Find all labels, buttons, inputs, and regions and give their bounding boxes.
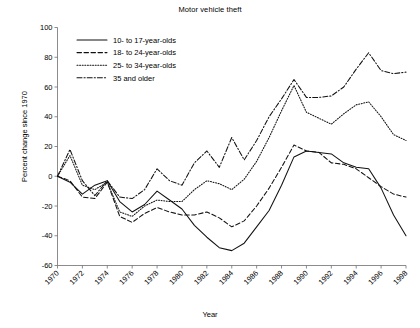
x-axis-tick-label: 1970 bbox=[43, 269, 61, 287]
legend-label-2: 18- to 24-year-olds bbox=[113, 48, 176, 57]
y-axis-tick-label: 0 bbox=[48, 172, 52, 181]
y-axis-tick-label: -40 bbox=[42, 231, 53, 240]
chart-plot-area: 100806040200-20-40-601970197219741976197… bbox=[0, 0, 420, 328]
y-axis-tick-label: -60 bbox=[42, 261, 53, 270]
x-axis-tick-label: 1984 bbox=[217, 269, 235, 287]
y-axis-tick-label: 100 bbox=[40, 23, 53, 32]
x-axis-tick-label: 1992 bbox=[317, 269, 335, 287]
x-axis-tick-label: 1978 bbox=[142, 269, 160, 287]
legend-label-1: 10- to 17-year-olds bbox=[113, 36, 176, 45]
x-axis-tick-label: 1986 bbox=[242, 269, 260, 287]
x-axis-tick-label: 1988 bbox=[267, 269, 285, 287]
data-line-2 bbox=[58, 145, 407, 227]
y-axis-tick-label: 80 bbox=[44, 53, 52, 62]
y-axis-tick-label: 60 bbox=[44, 83, 52, 92]
x-axis-tick-label: 1998 bbox=[391, 269, 409, 287]
data-line-4 bbox=[58, 53, 407, 199]
x-axis-tick-label: 1996 bbox=[366, 269, 384, 287]
x-axis-tick-label: 1974 bbox=[93, 269, 111, 287]
legend-label-4: 35 and older bbox=[113, 74, 155, 83]
y-axis-tick-label: -20 bbox=[42, 202, 53, 211]
data-line-1 bbox=[58, 151, 407, 251]
x-axis-tick-label: 1972 bbox=[68, 269, 86, 287]
y-axis-tick-label: 40 bbox=[44, 112, 52, 121]
x-axis-tick-label: 1976 bbox=[117, 269, 135, 287]
data-line-3 bbox=[58, 86, 407, 217]
legend-label-3: 25- to 34-year-olds bbox=[113, 61, 176, 70]
x-axis-tick-label: 1990 bbox=[292, 269, 310, 287]
x-axis-tick-label: 1982 bbox=[192, 269, 210, 287]
x-axis-tick-label: 1980 bbox=[167, 269, 185, 287]
x-axis-tick-label: 1994 bbox=[341, 269, 359, 287]
y-axis-tick-label: 20 bbox=[44, 142, 52, 151]
chart-container: Motor vehicle theft Percent change since… bbox=[0, 0, 420, 328]
